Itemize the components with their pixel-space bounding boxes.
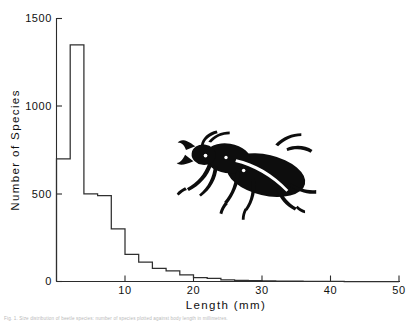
x-tick-label-10: 10 [118,284,131,296]
x-tick-label-40: 40 [324,284,337,296]
figure-container: 1500 1000 500 0 Number of Species 10 20 … [0,0,412,324]
x-tick-label-20: 20 [187,284,200,296]
y-tick-label-1500: 1500 [25,12,52,24]
figure-caption: Fig. 1. Size distribution of beetle spec… [4,316,228,321]
y-tick-label-500: 500 [32,188,52,200]
x-tick-label-30: 30 [255,284,268,296]
histogram-chart: 1500 1000 500 0 Number of Species 10 20 … [0,0,412,324]
x-axis: 10 20 30 40 50 Length (mm) [57,276,406,312]
x-tick-label-50: 50 [392,284,405,296]
y-axis: 1500 1000 500 0 Number of Species [9,12,62,287]
y-axis-title: Number of Species [9,89,21,211]
beetle-silhouette-icon [177,130,317,219]
y-tick-label-0: 0 [45,275,52,287]
y-tick-label-1000: 1000 [25,100,52,112]
x-axis-title: Length (mm) [186,299,267,311]
